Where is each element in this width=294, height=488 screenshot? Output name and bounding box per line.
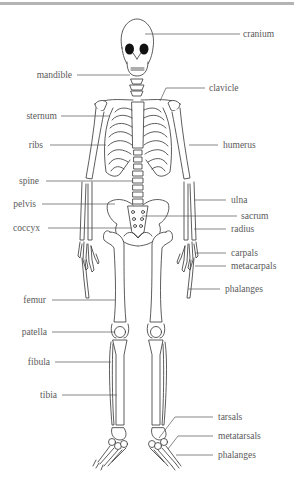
label-humerus: humerus bbox=[223, 140, 256, 150]
label-coccyx: coccyx bbox=[13, 223, 40, 233]
label-spine: spine bbox=[19, 176, 39, 186]
label-ulna: ulna bbox=[231, 195, 247, 205]
label-fibula: fibula bbox=[28, 357, 50, 367]
label-phalanges-foot: phalanges bbox=[218, 450, 256, 460]
label-clavicle: clavicle bbox=[209, 83, 239, 93]
neck bbox=[130, 79, 144, 96]
left-foot bbox=[93, 428, 128, 470]
label-phalanges-hand: phalanges bbox=[225, 284, 263, 294]
label-metacarpals: metacarpals bbox=[231, 261, 276, 271]
label-mandible: mandible bbox=[37, 70, 72, 80]
label-radius: radius bbox=[231, 224, 254, 234]
label-tarsals: tarsals bbox=[218, 412, 242, 422]
label-patella: patella bbox=[22, 327, 47, 337]
label-cranium: cranium bbox=[243, 29, 274, 39]
right-foot bbox=[149, 428, 182, 470]
left-hand bbox=[78, 242, 99, 298]
spine bbox=[133, 150, 143, 204]
label-tibia: tibia bbox=[40, 390, 57, 400]
label-carpals: carpals bbox=[231, 248, 258, 258]
label-ribs: ribs bbox=[29, 140, 43, 150]
label-pelvis: pelvis bbox=[13, 199, 36, 209]
label-sternum: sternum bbox=[26, 111, 57, 121]
right-hand bbox=[177, 242, 198, 298]
label-sacrum: sacrum bbox=[241, 211, 268, 221]
label-metatarsals: metatarsals bbox=[218, 431, 261, 441]
label-femur: femur bbox=[23, 295, 46, 305]
